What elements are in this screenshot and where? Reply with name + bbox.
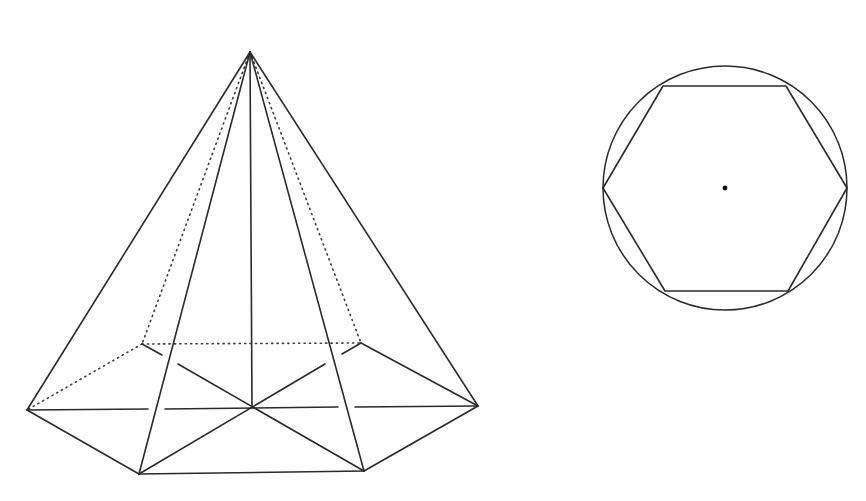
hidden-edges	[27, 52, 361, 410]
base-edge-right-front	[364, 406, 478, 471]
hexagonal-pyramid	[27, 52, 478, 474]
base-edge-left-front	[27, 410, 139, 474]
lateral-edge-right	[250, 52, 478, 406]
figure-svg	[0, 0, 866, 501]
diagonal-left-right-seg1	[27, 409, 148, 410]
hexagon-inscribed-in-circle	[603, 66, 847, 310]
base-edge-right-back	[361, 343, 478, 406]
diagonal-backleft-frontright-seg1	[142, 344, 162, 355]
diagonal-left-right-seg3	[355, 406, 478, 407]
hidden-base-edge-back-left	[27, 344, 142, 410]
diagonal-backright-frontleft-seg2	[139, 364, 325, 474]
diagonal-backleft-frontright-seg2	[178, 364, 364, 471]
lateral-edges	[27, 52, 478, 474]
geometry-figure	[0, 0, 866, 501]
diagonal-backright-frontleft-seg1	[342, 343, 361, 354]
center-point	[723, 186, 728, 191]
base-edge-front	[139, 471, 364, 474]
lateral-edge-left	[27, 52, 250, 410]
pyramid-height-line	[250, 52, 252, 408]
lateral-edge-front-left	[139, 52, 250, 474]
